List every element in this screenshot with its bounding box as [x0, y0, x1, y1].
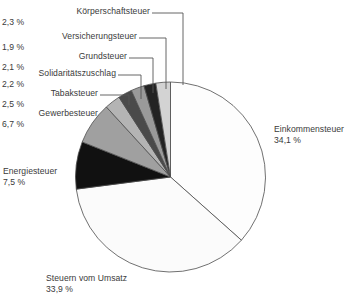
label-tabaksteuer-name: Tabaksteuer: [51, 88, 98, 98]
label-gewerbesteuer-value: 6,7 %: [2, 119, 98, 130]
label-solidaritaetszuschlag: Solidaritätszuschlag 2,2 %: [2, 68, 116, 89]
label-grundsteuer-name: Grundsteuer: [79, 51, 127, 61]
label-energiesteuer-name: Energiesteuer: [3, 166, 57, 176]
leader-line-koerperschaftsteuer: [152, 13, 183, 85]
label-gewerbesteuer: Gewerbesteuer 6,7 %: [2, 108, 98, 129]
label-energiesteuer: Energiesteuer 7,5 %: [3, 166, 57, 187]
label-gewerbesteuer-name: Gewerbesteuer: [39, 108, 98, 118]
pie-chart: Körperschaftsteuer 2,3 % Versicherungste…: [0, 0, 346, 299]
label-energiesteuer-value: 7,5 %: [3, 177, 57, 188]
label-steuern-vom-umsatz-value: 33,9 %: [46, 284, 127, 295]
label-steuern-vom-umsatz: Steuern vom Umsatz 33,9 %: [46, 273, 127, 294]
leader-line-versicherungsteuer: [139, 38, 166, 89]
label-versicherungsteuer-name: Versicherungsteuer: [62, 31, 137, 41]
label-einkommensteuer-name: Einkommensteuer: [274, 124, 344, 134]
label-einkommensteuer-value: 34,1 %: [274, 135, 344, 146]
label-koerperschaftsteuer-name: Körperschaftsteuer: [76, 6, 150, 16]
label-versicherungsteuer: Versicherungsteuer 1,9 %: [2, 31, 137, 52]
label-koerperschaftsteuer-value: 2,3 %: [2, 17, 150, 28]
label-koerperschaftsteuer: Körperschaftsteuer 2,3 %: [2, 6, 150, 27]
label-einkommensteuer: Einkommensteuer 34,1 %: [274, 124, 344, 145]
label-solidaritaetszuschlag-name: Solidaritätszuschlag: [39, 68, 116, 78]
pie-slices-group: [76, 82, 266, 272]
label-steuern-vom-umsatz-name: Steuern vom Umsatz: [46, 273, 127, 283]
label-tabaksteuer: Tabaksteuer 2,5 %: [2, 88, 98, 109]
